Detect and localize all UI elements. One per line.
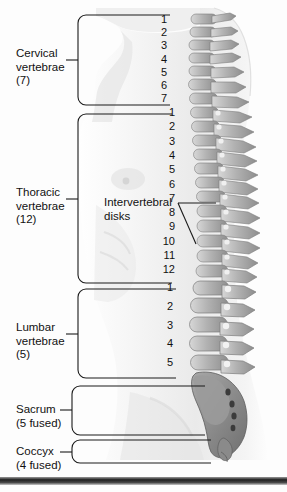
thoracic-number-8: 8 <box>160 207 175 218</box>
cervical-number-7: 7 <box>158 93 167 104</box>
label-thoracic-line2: vertebrae <box>16 200 65 214</box>
lumbar-number-3: 3 <box>164 320 173 331</box>
label-coccyx: Coccyx (4 fused) <box>16 445 61 472</box>
thoracic-number-11: 11 <box>160 250 175 261</box>
cervical-number-6: 6 <box>158 80 167 91</box>
thoracic-number-1: 1 <box>160 107 175 118</box>
thoracic-number-9: 9 <box>160 221 175 232</box>
label-lumbar-count: (5) <box>16 348 65 362</box>
thoracic-number-4: 4 <box>160 150 175 161</box>
page-edge-band <box>0 477 287 485</box>
label-cervical-line2: vertebrae <box>16 61 65 75</box>
thoracic-number-10: 10 <box>160 236 175 247</box>
cervical-number-4: 4 <box>158 54 167 65</box>
label-sacrum-count: (5 fused) <box>16 417 61 431</box>
thoracic-number-6: 6 <box>160 179 175 190</box>
label-lumbar: Lumbar vertebrae (5) <box>16 321 65 362</box>
lumbar-number-1: 1 <box>164 282 173 293</box>
cervical-number-2: 2 <box>158 27 167 38</box>
label-thoracic: Thoracic vertebrae (12) <box>16 186 65 227</box>
label-thoracic-line1: Thoracic <box>16 186 65 200</box>
label-lumbar-line2: vertebrae <box>16 335 65 349</box>
lumbar-number-4: 4 <box>164 338 173 349</box>
thoracic-number-5: 5 <box>160 164 175 175</box>
cervical-number-5: 5 <box>158 67 167 78</box>
label-lumbar-line1: Lumbar <box>16 321 65 335</box>
label-thoracic-count: (12) <box>16 213 65 227</box>
label-cervical: Cervical vertebrae (7) <box>16 47 65 88</box>
label-coccyx-line1: Coccyx <box>16 445 61 459</box>
label-cervical-count: (7) <box>16 74 65 88</box>
thoracic-number-12: 12 <box>160 264 175 275</box>
thoracic-number-7: 7 <box>160 193 175 204</box>
label-sacrum-line1: Sacrum <box>16 403 61 417</box>
cervical-number-3: 3 <box>158 40 167 51</box>
thoracic-number-3: 3 <box>160 136 175 147</box>
label-sacrum: Sacrum (5 fused) <box>16 403 61 430</box>
lumbar-number-2: 2 <box>164 301 173 312</box>
label-cervical-line1: Cervical <box>16 47 65 61</box>
thoracic-number-2: 2 <box>160 121 175 132</box>
label-coccyx-count: (4 fused) <box>16 459 61 473</box>
lumbar-number-5: 5 <box>164 357 173 368</box>
spine-anatomy-figure: Cervical vertebrae (7) Thoracic vertebra… <box>0 0 287 492</box>
cervical-number-1: 1 <box>158 14 167 25</box>
